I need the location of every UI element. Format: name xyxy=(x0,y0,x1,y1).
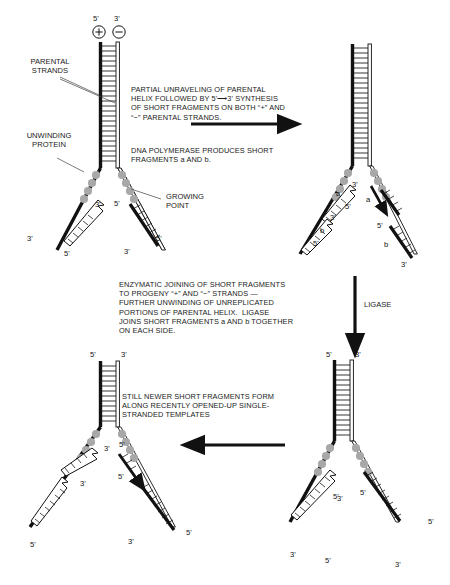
panel-2-end-3p-b: 3' xyxy=(330,213,336,222)
panel-4-top-five-prime: 5' xyxy=(90,350,96,359)
panel-1-end-5p-c: 5' xyxy=(156,234,162,243)
panel-2-fork xyxy=(300,44,417,258)
panel-1-end-5p-b: 5' xyxy=(114,199,120,208)
panel-4-strand-right-old xyxy=(140,484,174,530)
callout-parental-strands: PARENTAL STRANDS xyxy=(14,57,86,76)
panel-4-end-5p-far-right: 5' xyxy=(186,528,192,537)
panel-1-unwinding-protein-beads xyxy=(80,171,138,203)
text-block-enzymatic-joining: ENZYMATIC JOINING OF SHORT FRAGMENTS TO … xyxy=(119,280,293,335)
panel-4-end-3p-lower: 3' xyxy=(80,479,86,488)
text-block-still-newer-fragments: STILL NEWER SHORT FRAGMENTS FORM ALONG R… xyxy=(122,392,274,420)
panel-2-duplex xyxy=(353,44,372,166)
panel-2-end-3p-a: 3' xyxy=(352,180,358,189)
panel-3-duplex xyxy=(335,360,354,441)
panel-1-duplex xyxy=(101,42,120,168)
arrow-label-ligase: LIGASE xyxy=(364,300,391,309)
panel-2-fragment-label-a-left: a xyxy=(336,189,340,198)
text-block-dna-polymerase: DNA POLYMERASE PRODUCES SHORT FRAGMENTS … xyxy=(131,146,273,164)
panel-1-end-5p-a: 5' xyxy=(64,249,70,258)
panel-4-strand-left-old xyxy=(31,477,68,526)
panel-2-end-5p-a: 5' xyxy=(345,202,351,211)
panel-3-top-three-prime: 3' xyxy=(355,350,361,359)
panel-4-end-5p-lower: 5' xyxy=(30,540,36,549)
panel-4-fork xyxy=(30,361,175,530)
callout-unwinding-protein: UNWINDING PROTEIN xyxy=(11,131,87,150)
diagram-canvas: 5' 3' PARENTAL STRANDS UNWINDING PROTEIN… xyxy=(0,0,450,585)
panel-3-end-5p-d: 5' xyxy=(428,517,434,526)
text-block-partial-unraveling: PARTIAL UNRAVELING OF PARENTAL HELIX FOL… xyxy=(131,85,285,122)
panel-1-top-five-prime: 5' xyxy=(93,14,99,23)
panel-3-top-five-prime: 5' xyxy=(326,350,332,359)
panel-3-new-strand-right xyxy=(364,472,401,521)
panel-3-fork xyxy=(290,360,401,522)
panel-2-fragment-label-b-right: b xyxy=(384,240,388,249)
panel-4-end-5p-right-mid: 5' xyxy=(118,472,124,481)
callout-growing-point: GROWING POINT xyxy=(166,192,204,211)
panel-2-end-5p-c: 5' xyxy=(377,221,383,230)
panel-2-fragment-label-a-right: a xyxy=(366,195,370,204)
panel-3-end-3p-b: 3' xyxy=(290,550,296,559)
panel-1-end-3p-a: 3' xyxy=(27,234,33,243)
panel-4-end-3p-right: 3' xyxy=(128,537,134,546)
panel-2-end-3p-c: 3' xyxy=(401,260,407,269)
panel-4-end-5p-right-upper: 5' xyxy=(119,440,125,449)
panel-1-end-3p-b: 3' xyxy=(95,200,101,209)
panel-4-duplex xyxy=(101,361,120,427)
panel-3-end-5p-c: 5' xyxy=(360,488,366,497)
panel-3-end-5p-b: 5' xyxy=(325,556,331,565)
panel-4-top-three-prime: 3' xyxy=(121,350,127,359)
panel-3-unwinding-protein-beads xyxy=(314,444,372,476)
panel-3-end-5p-a: 5' xyxy=(333,492,339,501)
panel-1-end-3p-c: 3' xyxy=(124,247,130,256)
polarity-circles-panel-1 xyxy=(93,26,125,38)
panel-4-fragment-left-new xyxy=(61,448,98,476)
panel-3-end-3p-c: 3' xyxy=(395,560,401,569)
panel-2-fragment-a-right xyxy=(381,190,402,215)
panel-1-top-three-prime: 3' xyxy=(114,14,120,23)
panel-4-end-3p-upper: 3' xyxy=(104,444,110,453)
panel-2-fragment-label-b-left: b xyxy=(320,226,324,235)
